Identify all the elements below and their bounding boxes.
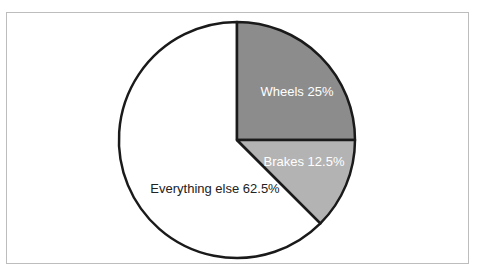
slice-wheels (237, 22, 355, 140)
label-brakes: Brakes 12.5% (264, 154, 345, 169)
pie-chart: Wheels 25% Brakes 12.5% Everything else … (0, 0, 477, 273)
label-wheels: Wheels 25% (261, 84, 334, 99)
label-everything-else: Everything else 62.5% (150, 181, 280, 196)
